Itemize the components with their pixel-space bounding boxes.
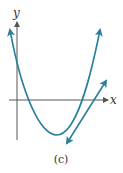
y-axis-label: y <box>12 6 20 20</box>
graph-figure: y x (c) <box>0 0 123 173</box>
figure-caption: (c) <box>54 153 69 166</box>
linear-line <box>67 81 106 143</box>
parabola-curve <box>10 30 100 135</box>
x-axis-label: x <box>110 93 117 107</box>
